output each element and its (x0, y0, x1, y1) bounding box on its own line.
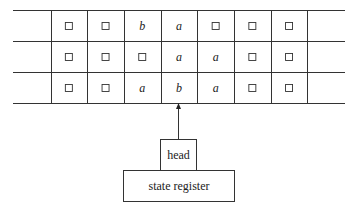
blank-symbol-icon (102, 54, 109, 61)
blank-symbol-icon (286, 85, 293, 92)
tape-symbol: b (139, 19, 145, 33)
turing-machine-diagram: baaaaba head state register (0, 0, 358, 211)
tape-cells: baaaaba (65, 19, 292, 95)
blank-symbol-icon (139, 54, 146, 61)
blank-symbol-icon (212, 23, 219, 30)
tape-symbol: a (176, 19, 182, 33)
tape-symbol: a (213, 50, 219, 64)
blank-symbol-icon (286, 54, 293, 61)
tape-symbol: a (139, 81, 145, 95)
blank-symbol-icon (65, 54, 72, 61)
blank-symbol-icon (286, 23, 293, 30)
head-label: head (167, 148, 190, 162)
blank-symbol-icon (65, 23, 72, 30)
blank-symbol-icon (249, 54, 256, 61)
blank-symbol-icon (249, 85, 256, 92)
blank-symbol-icon (102, 23, 109, 30)
state-register-label: state register (149, 179, 210, 193)
tape-symbol: a (176, 50, 182, 64)
blank-symbol-icon (249, 23, 256, 30)
blank-symbol-icon (102, 85, 109, 92)
blank-symbol-icon (65, 85, 72, 92)
tape-symbol: b (176, 81, 182, 95)
tape-symbol: a (213, 81, 219, 95)
